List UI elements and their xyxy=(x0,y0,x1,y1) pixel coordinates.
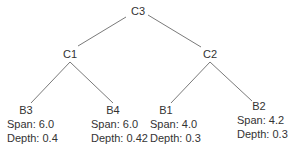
edge-c1-b3 xyxy=(31,62,70,103)
depth-value: Depth: 0.3 xyxy=(237,127,281,141)
leaf-b2: B2 Span: 4.2 Depth: 0.3 xyxy=(237,99,281,141)
edge-c1-b4 xyxy=(70,62,113,103)
edge-c3-c1 xyxy=(78,17,126,46)
depth-value: Depth: 0.42 xyxy=(91,131,141,145)
leaf-label: B4 xyxy=(91,103,135,117)
node-c2: C2 xyxy=(195,48,225,60)
depth-value: Depth: 0.3 xyxy=(150,131,194,145)
leaf-b1: B1 Span: 4.0 Depth: 0.3 xyxy=(150,103,194,145)
depth-value: Depth: 0.4 xyxy=(7,131,51,145)
leaf-label: B3 xyxy=(7,103,45,117)
edge-c2-b2 xyxy=(210,62,252,101)
leaf-b3: B3 Span: 6.0 Depth: 0.4 xyxy=(7,103,51,145)
node-c3: C3 xyxy=(123,5,153,17)
edge-c3-c2 xyxy=(148,15,201,47)
span-value: Span: 6.0 xyxy=(91,117,141,131)
leaf-label: B2 xyxy=(237,99,281,113)
leaf-b4: B4 Span: 6.0 Depth: 0.42 xyxy=(91,103,141,145)
edge-c2-b1 xyxy=(171,62,210,103)
span-value: Span: 6.0 xyxy=(7,117,51,131)
span-value: Span: 4.2 xyxy=(237,113,281,127)
span-value: Span: 4.0 xyxy=(150,117,194,131)
leaf-label: B1 xyxy=(150,103,182,117)
node-c1: C1 xyxy=(55,48,85,60)
